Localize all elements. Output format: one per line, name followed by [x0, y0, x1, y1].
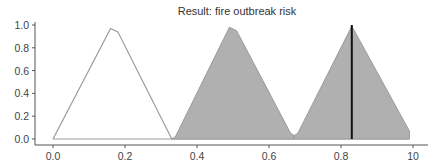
x-tick-label: 10 — [407, 150, 419, 162]
x-tick-label: 0.6 — [262, 150, 277, 162]
y-tick-label: 0.0 — [14, 133, 29, 145]
fire-outbreak-risk-chart: Result: fire outbreak risk 0.00.20.40.60… — [0, 0, 445, 168]
x-axis-ticks: 0.00.20.40.60.810 — [46, 145, 419, 162]
x-tick-label: 0.0 — [46, 150, 61, 162]
y-tick-label: 0.8 — [14, 42, 29, 54]
y-tick-label: 0.4 — [14, 87, 29, 99]
y-tick-label: 1.0 — [14, 19, 29, 31]
x-tick-label: 0.8 — [334, 150, 349, 162]
membership-area-medium — [172, 27, 294, 139]
y-tick-label: 0.6 — [14, 65, 29, 77]
chart-title: Result: fire outbreak risk — [178, 5, 297, 17]
x-tick-label: 0.4 — [190, 150, 205, 162]
x-tick-label: 0.2 — [118, 150, 133, 162]
plot-area — [53, 25, 409, 139]
membership-line-low — [53, 28, 172, 139]
y-axis-ticks: 0.00.20.40.60.81.0 — [14, 19, 35, 145]
y-tick-label: 0.2 — [14, 110, 29, 122]
